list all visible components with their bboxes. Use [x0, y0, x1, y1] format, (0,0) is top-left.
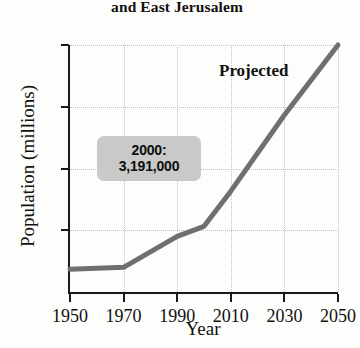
gridline-vertical — [338, 45, 339, 292]
plot-area: 36912 195019701990201020302050 Projected… — [68, 45, 337, 293]
x-tick-mark — [69, 294, 71, 302]
callout-value: 3,191,000 — [119, 159, 179, 174]
x-tick-mark — [123, 294, 125, 302]
callout-year: 2000: — [132, 143, 167, 158]
projected-label: Projected — [219, 61, 289, 81]
x-tick-mark — [176, 294, 178, 302]
chart-title: and East Jerusalem — [0, 0, 354, 16]
x-tick-label: 2010 — [203, 306, 259, 327]
x-tick-mark — [283, 294, 285, 302]
callout-2000: 2000: 3,191,000 — [97, 136, 201, 181]
x-tick-mark — [230, 294, 232, 302]
x-tick-label: 1950 — [42, 306, 98, 327]
callout-box: 2000: 3,191,000 — [97, 136, 201, 181]
x-tick-label: 2050 — [310, 306, 360, 327]
x-tick-label: 1990 — [149, 306, 205, 327]
x-tick-mark — [337, 294, 339, 302]
y-axis-label: Population (millions) — [17, 56, 39, 276]
x-tick-label: 1970 — [96, 306, 152, 327]
x-tick-label: 2030 — [256, 306, 312, 327]
